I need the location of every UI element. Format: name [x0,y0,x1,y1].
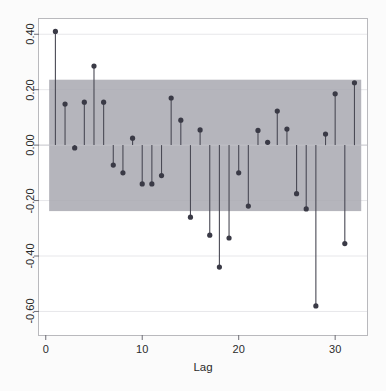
data-point-lag-6 [101,100,106,105]
data-point-lag-19 [226,235,231,240]
x-tick-label: 30 [315,343,355,355]
data-point-lag-23 [265,140,270,145]
data-point-lag-4 [82,100,87,105]
data-point-lag-17 [207,233,212,238]
autocorrelation-chart-figure: 0.400.200.00-0.20-0.40-0.60 0102030 Lag [0,0,386,391]
data-point-lag-15 [188,215,193,220]
y-tick-label: 0.00 [22,125,38,165]
data-point-lag-16 [198,127,203,132]
data-point-lag-10 [140,181,145,186]
x-axis-title: Lag [153,361,253,373]
plot-svg [0,0,386,391]
y-tick-label: 0.40 [22,14,38,54]
data-point-lag-5 [91,64,96,69]
data-point-lag-26 [294,191,299,196]
data-point-lag-32 [352,80,357,85]
y-tick-label: 0.20 [22,70,38,110]
data-point-lag-2 [62,102,67,107]
data-point-lag-22 [255,128,260,133]
data-point-lag-29 [323,131,328,136]
data-point-lag-1 [53,29,58,34]
data-point-lag-27 [304,206,309,211]
y-tick-label: -0.60 [22,291,38,331]
data-point-lag-8 [120,170,125,175]
data-point-lag-18 [217,264,222,269]
data-point-lag-25 [284,126,289,131]
data-point-lag-21 [246,204,251,209]
screenshot-canvas: 0.400.200.00-0.20-0.40-0.60 0102030 Lag [0,0,386,391]
data-point-lag-11 [149,181,154,186]
x-tick-label: 10 [122,343,162,355]
data-point-lag-7 [111,162,116,167]
y-tick-label: -0.20 [22,181,38,221]
data-point-lag-3 [72,145,77,150]
data-point-lag-31 [342,241,347,246]
data-point-lag-12 [159,173,164,178]
data-point-lag-30 [333,91,338,96]
data-point-lag-14 [178,118,183,123]
y-tick-label: -0.40 [22,236,38,276]
data-point-lag-28 [313,303,318,308]
data-point-lag-20 [236,170,241,175]
data-point-lag-9 [130,136,135,141]
data-point-lag-24 [275,108,280,113]
data-point-lag-13 [169,95,174,100]
x-tick-label: 0 [26,343,66,355]
x-tick-label: 20 [219,343,259,355]
